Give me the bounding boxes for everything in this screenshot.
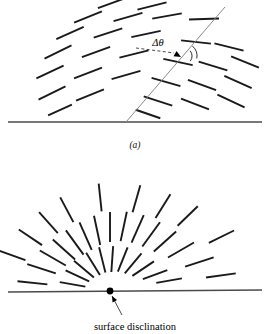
radial-director-segment — [18, 281, 48, 284]
director-segment — [137, 2, 166, 9]
director-segment — [114, 13, 143, 21]
angle-arc-path — [192, 46, 197, 58]
radial-director-segment — [154, 231, 176, 251]
radial-director-segment — [99, 184, 102, 212]
radial-director-segment — [60, 282, 86, 287]
delta-theta-label: Δθ — [151, 37, 163, 48]
panel-a-arrowhead-icon — [174, 51, 181, 57]
surface-disclination-point — [107, 288, 114, 295]
director-segment — [56, 27, 83, 39]
radial-director-segment — [156, 194, 171, 218]
director-segment — [152, 78, 181, 86]
director-segment — [48, 105, 72, 116]
radial-director-segment — [66, 270, 90, 281]
radial-director-segment — [206, 273, 236, 277]
radial-director-segment — [185, 257, 214, 266]
radial-director-segment — [142, 222, 160, 246]
director-segment — [74, 68, 102, 79]
director-segment — [231, 56, 259, 67]
radial-director-segment — [143, 270, 167, 279]
radial-director-segment — [118, 247, 128, 271]
radial-director-segment — [53, 239, 75, 259]
panel-a: Δθ (a) — [8, 0, 262, 151]
director-segment — [94, 28, 123, 37]
director-segment — [45, 45, 72, 58]
radial-director-segment — [111, 246, 113, 272]
radial-director-segment — [19, 229, 42, 245]
liquid-crystal-disclination-figure: Δθ (a) surface disclination — [0, 0, 270, 334]
director-segment — [98, 0, 126, 8]
director-segment — [74, 11, 102, 22]
panel-b-radial-segments — [0, 184, 236, 287]
panel-a-caption-label: (a) — [129, 140, 140, 151]
panel-a-angle-arc — [190, 46, 197, 61]
radial-director-segment — [133, 185, 141, 212]
director-segment — [217, 95, 244, 108]
director-segment — [181, 99, 209, 110]
director-segment — [119, 50, 148, 57]
director-segment — [76, 89, 104, 100]
radial-director-segment — [66, 230, 84, 254]
director-segment — [199, 62, 228, 71]
director-segment — [152, 13, 182, 18]
radial-director-segment — [121, 212, 127, 241]
director-segment — [136, 110, 161, 118]
radial-director-segment — [60, 197, 73, 222]
radial-director-segment — [39, 212, 58, 233]
director-segment — [144, 96, 173, 105]
surface-disclination-caption: surface disclination — [94, 321, 177, 332]
radial-director-segment — [132, 261, 154, 276]
director-segment — [39, 86, 66, 99]
radial-director-segment — [27, 264, 56, 273]
radial-director-segment — [99, 247, 105, 272]
radial-director-segment — [94, 216, 100, 245]
director-segment — [82, 47, 110, 57]
radial-director-segment — [132, 215, 144, 242]
angle-arc-inner-path — [190, 51, 192, 61]
panel-a-director-segments — [36, 0, 259, 118]
radial-director-segment — [40, 251, 66, 266]
director-segment — [188, 80, 216, 90]
radial-director-segment — [209, 231, 234, 243]
radial-director-segment — [79, 222, 91, 249]
director-segment — [36, 66, 63, 79]
radial-director-segment — [156, 278, 182, 283]
panel-b-surface-baseline — [8, 290, 262, 292]
director-segment — [214, 43, 243, 50]
radial-director-segment — [178, 206, 198, 225]
panel-b: surface disclination — [0, 184, 262, 332]
radial-director-segment — [168, 243, 194, 258]
director-segment — [224, 76, 251, 88]
figure-root: Δθ (a) surface disclination — [0, 0, 270, 334]
director-segment — [112, 71, 141, 79]
radial-director-segment — [0, 251, 25, 261]
